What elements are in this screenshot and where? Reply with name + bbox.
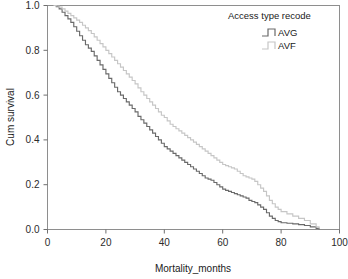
x-tick-label: 80 [276,237,288,248]
kaplan-meier-plot: 020406080100 0.00.20.40.60.81.0 Mortalit… [0,0,348,279]
y-tick-label: 1.0 [26,0,40,11]
y-tick-label: 0.0 [26,224,40,235]
survival-chart-figure: 020406080100 0.00.20.40.60.81.0 Mortalit… [0,0,348,279]
x-tick-label: 0 [45,237,51,248]
x-tick-label: 100 [331,237,348,248]
y-tick-label: 0.6 [26,90,40,101]
legend-label-avf: AVF [278,40,296,51]
x-axis-title: Mortality_months [155,263,231,274]
x-tick-label: 60 [217,237,229,248]
y-tick-label: 0.2 [26,179,40,190]
y-tick-label: 0.4 [26,134,40,145]
legend-title: Access type recode [228,10,311,21]
figure-background [0,0,348,279]
y-axis-title: Cum survival [5,88,16,146]
x-tick-label: 40 [159,237,171,248]
legend-label-avg: AVG [278,27,297,38]
y-tick-label: 0.8 [26,45,40,56]
x-tick-label: 20 [100,237,112,248]
